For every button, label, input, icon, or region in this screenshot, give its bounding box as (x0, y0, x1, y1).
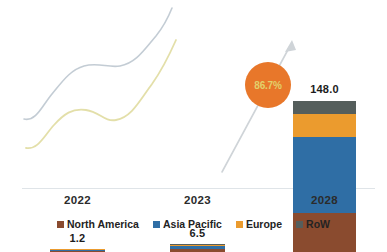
legend-label: Europe (246, 218, 282, 230)
bar-segment-row (293, 101, 356, 114)
legend-item-europe[interactable]: Europe (236, 218, 282, 230)
chart-legend: North America Asia Pacific Europe RoW (0, 218, 387, 230)
bar-stack-2023[interactable] (170, 244, 225, 252)
legend-swatch-icon (57, 221, 64, 228)
legend-item-asia-pacific[interactable]: Asia Pacific (153, 218, 222, 230)
plot-area: 1.2 6.5 148.0 (0, 0, 387, 252)
x-tick-label-2028: 2028 (293, 194, 356, 206)
legend-label: Asia Pacific (163, 218, 222, 230)
bar-value-label-2028: 148.0 (293, 83, 356, 95)
cagr-bubble-label: 86.7% (254, 80, 281, 91)
legend-swatch-icon (153, 221, 160, 228)
chart-container: 1.2 6.5 148.0 (0, 0, 387, 252)
legend-swatch-icon (296, 221, 303, 228)
legend-swatch-icon (236, 221, 243, 228)
x-tick-label-2023: 2023 (170, 194, 225, 206)
legend-item-north-america[interactable]: North America (57, 218, 139, 230)
bar-value-label-2022: 1.2 (50, 232, 105, 244)
legend-label: North America (67, 218, 139, 230)
cagr-bubble: 86.7% (245, 62, 291, 108)
legend-label: RoW (306, 218, 330, 230)
bar-segment-europe (293, 114, 356, 136)
legend-item-row[interactable]: RoW (296, 218, 330, 230)
x-tick-label-2022: 2022 (50, 194, 105, 206)
